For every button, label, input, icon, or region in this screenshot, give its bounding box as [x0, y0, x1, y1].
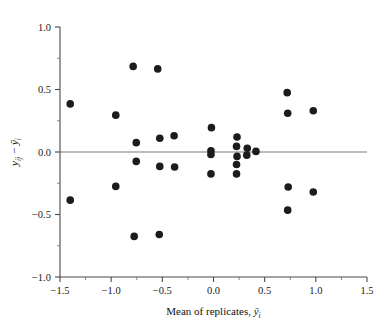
data-point [170, 132, 178, 140]
data-point [207, 170, 215, 178]
x-axis-title: Mean of replicates, ȳi [166, 305, 260, 320]
data-point [132, 158, 140, 166]
axis-labels-group: −1.5−1.0−0.50.00.51.01.5−1.0−0.50.00.51.… [8, 22, 374, 320]
data-point [243, 144, 251, 152]
data-point [309, 107, 317, 115]
data-point [171, 163, 179, 171]
data-point [130, 233, 138, 241]
data-point [208, 124, 216, 132]
x-tick-label: 1.5 [360, 285, 373, 296]
y-axis-title: yij − ȳi [8, 138, 23, 167]
y-tick-label: 1.0 [38, 22, 51, 33]
data-point [283, 89, 291, 97]
data-point [233, 143, 241, 151]
x-tick-label: 1.0 [309, 285, 322, 296]
data-point [132, 139, 140, 147]
data-point [129, 63, 137, 71]
plot-canvas: −1.5−1.0−0.50.00.51.01.5−1.0−0.50.00.51.… [0, 0, 388, 333]
data-point [233, 170, 241, 178]
data-point [66, 100, 74, 108]
data-point [154, 65, 162, 73]
y-tick-label: −0.5 [32, 209, 51, 220]
y-tick-label: 0.0 [38, 147, 51, 158]
y-tick-label: 0.5 [38, 84, 51, 95]
data-point [309, 188, 317, 196]
data-point [156, 163, 164, 171]
data-points-group [66, 63, 317, 241]
data-point [66, 196, 74, 204]
data-point [284, 109, 292, 117]
x-tick-label: 0.0 [207, 285, 220, 296]
data-point [233, 161, 241, 169]
x-tick-label: 0.5 [258, 285, 271, 296]
data-point [155, 231, 163, 239]
x-tick-label: −1.0 [102, 285, 121, 296]
data-point [233, 133, 241, 141]
x-tick-label: −0.5 [153, 285, 172, 296]
data-point [243, 151, 251, 159]
data-point [156, 134, 164, 142]
data-point [112, 111, 120, 119]
y-tick-label: −1.0 [32, 272, 51, 283]
data-point [284, 183, 292, 191]
data-point [207, 151, 215, 159]
scatter-plot-figure: −1.5−1.0−0.50.00.51.01.5−1.0−0.50.00.51.… [0, 0, 388, 333]
data-point [233, 153, 241, 161]
data-point [112, 183, 120, 191]
data-point [284, 206, 292, 214]
data-point [252, 148, 260, 156]
x-tick-label: −1.5 [50, 285, 69, 296]
